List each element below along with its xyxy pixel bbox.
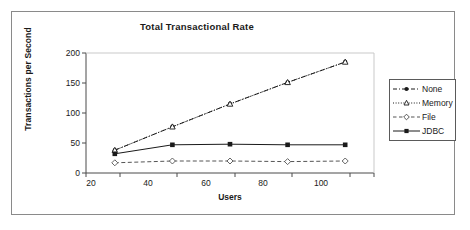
datapoint-file-100	[342, 158, 348, 164]
legend-label-file: File	[422, 112, 436, 122]
datapoint-file-20	[112, 160, 118, 166]
datapoint-jdbc-80	[285, 143, 290, 148]
legend-swatch-jdbc	[392, 124, 421, 138]
legend-label-none: None	[422, 84, 442, 94]
legend-item-jdbc[interactable]: JDBC	[390, 124, 457, 138]
datapoint-file-40	[169, 158, 175, 164]
datapoint-jdbc-20	[113, 152, 118, 157]
datapoint-file-60	[227, 158, 233, 164]
datapoint-jdbc-100	[343, 143, 348, 148]
datapoint-file-80	[285, 159, 291, 165]
legend-item-memory[interactable]: Memory	[390, 96, 457, 110]
datapoint-jdbc-40	[170, 143, 175, 148]
chart-frame: Total Transactional Rate Transactions pe…	[11, 11, 455, 215]
legend-swatch-memory	[392, 96, 421, 110]
datapoint-jdbc-60	[228, 142, 233, 147]
series-jdbc	[113, 142, 348, 156]
chart-screenshot: Total Transactional Rate Transactions pe…	[0, 0, 470, 230]
legend-item-file[interactable]: File	[390, 110, 457, 124]
series-file	[112, 158, 348, 166]
legend-swatch-file	[392, 110, 421, 124]
legend-label-memory: Memory	[422, 98, 453, 108]
legend-label-jdbc: JDBC	[422, 126, 444, 136]
legend-item-none[interactable]: None	[390, 82, 457, 96]
chart-legend: None Memory File	[389, 79, 456, 141]
legend-swatch-none	[392, 82, 421, 96]
